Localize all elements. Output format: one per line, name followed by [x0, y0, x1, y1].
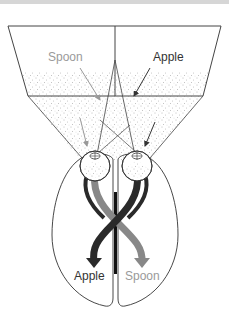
- screen-label-apple: Apple: [153, 50, 184, 64]
- screen-label-spoon: Spoon: [48, 50, 83, 64]
- right-eye: [122, 151, 152, 181]
- split-brain-diagram: Spoon Apple Apple Spoon: [0, 0, 229, 333]
- brain-label-spoon: Spoon: [125, 269, 160, 283]
- spoon-pathway-arrowhead-icon: [134, 258, 150, 268]
- left-eye: [80, 151, 110, 181]
- brain-label-apple: Apple: [74, 269, 105, 283]
- brain-outline: [52, 154, 178, 306]
- corpus-callosum: [114, 192, 117, 274]
- apple-pathway-arrowhead-icon: [86, 258, 102, 268]
